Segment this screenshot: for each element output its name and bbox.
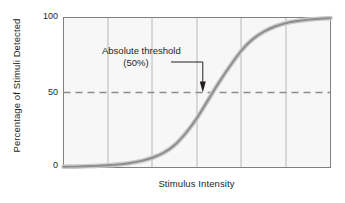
psychometric-function-figure: Percentage of Stimuli Detected 100 50 0 [0,0,345,203]
x-axis-label: Stimulus Intensity [63,178,330,189]
absolute-threshold-annotation-line2: (50%) [102,57,170,69]
absolute-threshold-annotation-line1: Absolute threshold [102,45,181,57]
plot-area [0,0,345,203]
